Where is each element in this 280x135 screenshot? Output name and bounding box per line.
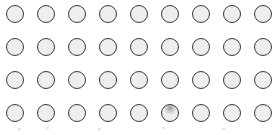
circle-cell-r3-c4[interactable] (99, 71, 117, 89)
footer-marks (0, 126, 280, 135)
circle-cell-r1-c2[interactable] (37, 5, 55, 23)
circle-cell-r1-c3[interactable] (68, 5, 86, 23)
circle-cell-r4-c1[interactable] (6, 104, 24, 122)
circle-cell-r4-c4[interactable] (99, 104, 117, 122)
circle-cell-r1-c8[interactable] (223, 5, 241, 23)
circle-cell-r2-c9[interactable] (254, 38, 272, 56)
circle-cell-r4-c8[interactable] (223, 104, 241, 122)
circle-cell-r1-c4[interactable] (99, 5, 117, 23)
circle-cell-r4-c7[interactable] (192, 104, 210, 122)
faint-mark (18, 128, 21, 130)
circle-cell-r1-c9[interactable] (254, 5, 272, 23)
circle-cell-r2-c6[interactable] (161, 38, 179, 56)
circle-cell-r2-c4[interactable] (99, 38, 117, 56)
circle-cell-r1-c7[interactable] (192, 5, 210, 23)
faint-mark (98, 128, 101, 130)
circle-cell-r3-c2[interactable] (37, 71, 55, 89)
circle-cell-r3-c5[interactable] (130, 71, 148, 89)
circle-cell-r4-c9[interactable] (254, 104, 272, 122)
peg-board (0, 0, 280, 135)
circle-cell-r2-c1[interactable] (6, 38, 24, 56)
circle-cell-r2-c5[interactable] (130, 38, 148, 56)
faint-mark (46, 127, 49, 129)
circle-cell-r3-c1[interactable] (6, 71, 24, 89)
circle-cell-r1-c1[interactable] (6, 5, 24, 23)
faint-mark (222, 128, 225, 130)
circle-cell-r1-c5[interactable] (130, 5, 148, 23)
circle-cell-r1-c6[interactable] (161, 5, 179, 23)
circle-cell-r4-c3[interactable] (68, 104, 86, 122)
circle-cell-r4-c6[interactable] (161, 104, 179, 122)
faint-mark (162, 127, 165, 129)
circle-cell-r3-c6[interactable] (161, 71, 179, 89)
circle-cell-r3-c8[interactable] (223, 71, 241, 89)
circle-cell-r3-c7[interactable] (192, 71, 210, 89)
circle-cell-r2-c8[interactable] (223, 38, 241, 56)
circle-cell-r3-c9[interactable] (254, 71, 272, 89)
circle-cell-r3-c3[interactable] (68, 71, 86, 89)
circle-cell-r2-c3[interactable] (68, 38, 86, 56)
circle-cell-r2-c7[interactable] (192, 38, 210, 56)
circle-cell-r4-c5[interactable] (130, 104, 148, 122)
circle-cell-r4-c2[interactable] (37, 104, 55, 122)
circle-cell-r2-c2[interactable] (37, 38, 55, 56)
